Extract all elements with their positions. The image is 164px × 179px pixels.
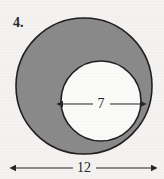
- annulus-diagram: 7 12 4.: [0, 0, 164, 179]
- outer-diameter-label: 12: [77, 160, 91, 175]
- geometry-figure-canvas: 7 12 4.: [0, 0, 164, 179]
- inner-diameter-label: 7: [98, 96, 105, 111]
- problem-number-label: 4.: [13, 15, 24, 30]
